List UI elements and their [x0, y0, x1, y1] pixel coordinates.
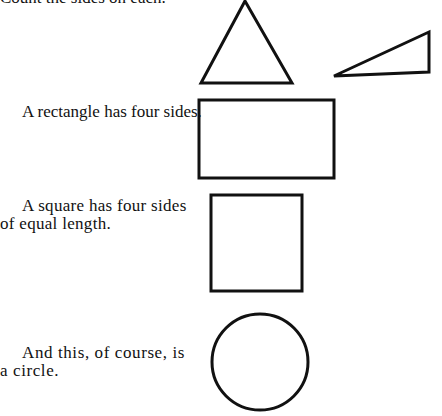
equilateral-triangle: [201, 1, 292, 83]
rectangle-shape: [199, 100, 334, 178]
circle-shape: [212, 314, 308, 410]
right-triangle: [334, 32, 429, 76]
square-shape: [211, 195, 302, 291]
shapes-figure: [0, 0, 442, 416]
